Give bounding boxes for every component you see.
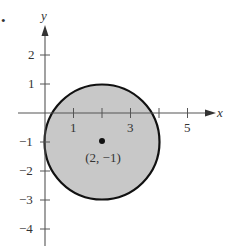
y-tick-label-neg1: −1 (19, 134, 33, 149)
center-point (99, 138, 105, 144)
center-label: (2, −1) (85, 150, 121, 165)
y-tick-label-neg4: −4 (19, 221, 33, 236)
y-axis-label: y (39, 8, 47, 23)
x-tick-label-5: 5 (184, 120, 191, 135)
y-tick-label-neg3: −3 (19, 192, 33, 207)
y-tick-label-1: 1 (28, 76, 35, 91)
y-tick-label-neg2: −2 (19, 163, 33, 178)
x-tick-label-3: 3 (127, 120, 134, 135)
bullet: • (1, 13, 6, 28)
x-axis-label: x (216, 105, 223, 120)
x-tick-label-1: 1 (70, 120, 77, 135)
x-axis-arrow-icon (205, 110, 216, 117)
y-axis-arrow-icon (42, 25, 49, 36)
y-tick-label-2: 2 (28, 47, 35, 62)
graph: • y x 1 3 5 2 1 −1 −2 −3 −4 (2, −1) (0, 0, 225, 251)
